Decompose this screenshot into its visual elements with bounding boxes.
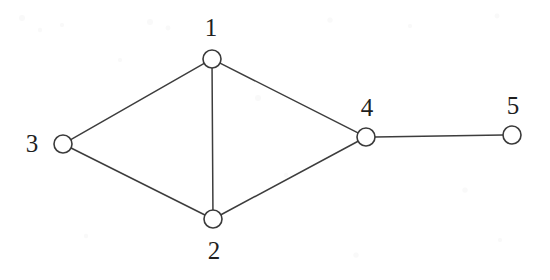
graph-node-label-5: 5 <box>507 93 520 118</box>
graph-edge-1-2 <box>212 68 213 210</box>
graph-edge-4-5 <box>375 135 503 137</box>
graph-node-label-4: 4 <box>361 95 374 120</box>
graph-node-label-2: 2 <box>208 238 221 263</box>
graph-node-3[interactable] <box>54 135 72 153</box>
graph-node-label-1: 1 <box>205 15 218 40</box>
graph-node-2[interactable] <box>204 210 222 228</box>
graph-node-4[interactable] <box>357 128 375 146</box>
graph-node-5[interactable] <box>503 126 521 144</box>
graph-canvas <box>0 0 550 280</box>
graph-edge-1-3 <box>71 63 204 139</box>
graph-edge-2-4 <box>221 141 358 214</box>
graph-node-label-3: 3 <box>26 131 39 156</box>
graph-figure: 12345 <box>0 0 550 280</box>
nodes-group <box>54 50 521 228</box>
graph-node-1[interactable] <box>203 50 221 68</box>
graph-edge-1-4 <box>220 63 358 133</box>
edges-group <box>71 63 503 215</box>
graph-edge-3-2 <box>71 148 205 215</box>
